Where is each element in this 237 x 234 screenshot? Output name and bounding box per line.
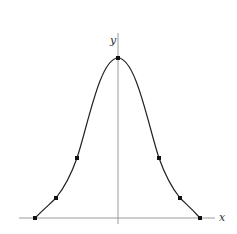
point-marker [178,196,182,200]
peak-point-marker [116,56,120,60]
point-marker [157,156,161,160]
point-marker [33,216,37,220]
point-marker [198,216,202,220]
y-axis-label: y [109,34,117,47]
x-axis-label: x [219,211,226,224]
point-marker [54,196,58,200]
point-marker [75,156,79,160]
bell-curve-diagram: x y [0,0,237,234]
